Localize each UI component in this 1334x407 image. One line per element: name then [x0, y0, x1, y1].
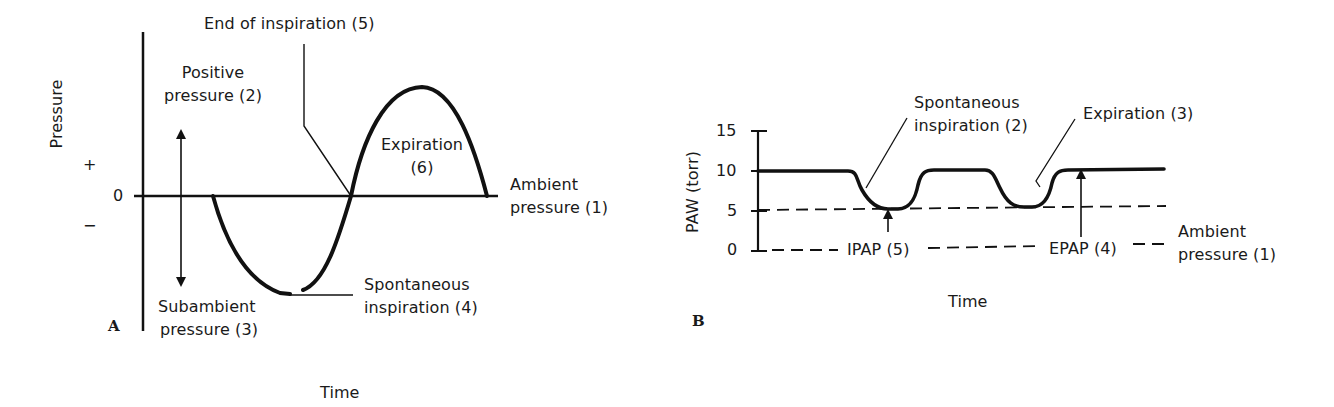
a-minus-sign: − [83, 216, 97, 236]
b-ipap-label: IPAP (5) [847, 240, 910, 260]
a-ambient-label-2: pressure (1) [510, 198, 608, 218]
panel-b-graph [751, 118, 1166, 251]
a-spontaneous-label-2: inspiration (4) [364, 298, 478, 318]
b-spontaneous-label-2: inspiration (2) [914, 116, 1028, 136]
a-positive-pressure-label-1: Positive [158, 63, 268, 83]
a-zero-tick: 0 [113, 186, 123, 206]
a-spontaneous-label-1: Spontaneous [364, 275, 470, 295]
b-epap-label: EPAP (4) [1049, 239, 1117, 259]
a-pressure-curve [213, 87, 487, 294]
diagram-canvas [0, 0, 1334, 407]
b-tick-5: 5 [727, 201, 737, 221]
b-y-axis-label: PAW (torr) [683, 151, 703, 233]
a-plus-sign: + [83, 155, 97, 175]
b-ambient-label-2: pressure (1) [1178, 245, 1276, 265]
a-y-axis-label: Pressure [47, 79, 67, 148]
b-ambient-label-1: Ambient [1178, 222, 1246, 242]
b-spontaneous-label-1: Spontaneous [914, 93, 1020, 113]
b-tick-15: 15 [716, 121, 737, 141]
a-panel-label: A [108, 316, 120, 336]
a-subambient-label-2: pressure (3) [160, 320, 258, 340]
a-expiration-label-2: (6) [372, 158, 472, 178]
a-x-axis-label: Time [320, 383, 360, 403]
a-positive-pressure-label-2: pressure (2) [158, 86, 268, 106]
b-ipap-dashed-line [758, 206, 1166, 210]
b-x-axis-label: Time [948, 292, 988, 312]
b-paw-curve [758, 169, 1164, 209]
a-expiration-label-1: Expiration [372, 135, 472, 155]
b-panel-label: B [692, 311, 705, 331]
a-ambient-label-1: Ambient [510, 175, 578, 195]
a-end-inspiration-leader [304, 44, 351, 196]
a-end-inspiration-label: End of inspiration (5) [204, 14, 375, 34]
b-expiration-label: Expiration (3) [1083, 104, 1193, 124]
b-tick-10: 10 [716, 161, 737, 181]
b-spontaneous-leader [866, 118, 907, 188]
b-tick-0: 0 [727, 240, 737, 260]
a-subambient-label-1: Subambient [158, 297, 256, 317]
